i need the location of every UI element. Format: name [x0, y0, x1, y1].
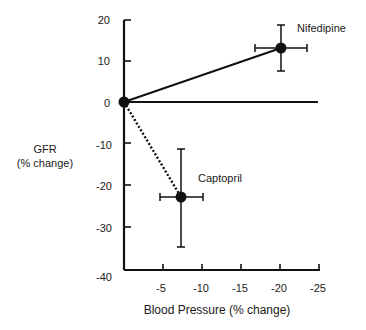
nifedipine-line — [124, 48, 281, 102]
svg-text:-20: -20 — [96, 180, 112, 192]
svg-text:20: 20 — [98, 14, 110, 26]
chart-svg: 20 10 0 -10 -20 -30 -40 -5 -10 -15 -20 -… — [0, 0, 366, 330]
svg-text:-15: -15 — [232, 282, 248, 294]
captopril-marker — [176, 192, 187, 203]
svg-text:-10: -10 — [193, 282, 209, 294]
nifedipine-marker — [276, 43, 287, 54]
svg-text:-5: -5 — [156, 282, 166, 294]
captopril-line — [124, 102, 181, 197]
svg-text:0: 0 — [104, 97, 110, 109]
y-axis-label-line2: (% change) — [17, 157, 73, 169]
nifedipine-label: Nifedipine — [297, 22, 346, 34]
captopril-label: Captopril — [198, 172, 242, 184]
svg-text:-30: -30 — [96, 222, 112, 234]
svg-text:-25: -25 — [310, 282, 326, 294]
y-tick-labels: 20 10 0 -10 -20 -30 -40 — [96, 14, 112, 283]
svg-text:-20: -20 — [271, 282, 287, 294]
x-axis-label: Blood Pressure (% change) — [144, 303, 291, 317]
svg-text:10: 10 — [98, 55, 110, 67]
origin-marker — [119, 97, 130, 108]
y-axis-label-line1: GFR — [33, 143, 56, 155]
svg-text:-10: -10 — [96, 139, 112, 151]
x-tick-labels: -5 -10 -15 -20 -25 — [156, 282, 326, 294]
svg-text:-40: -40 — [96, 271, 112, 283]
